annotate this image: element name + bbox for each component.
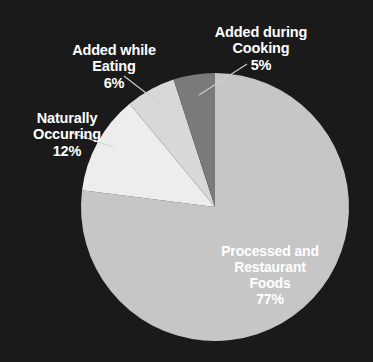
slice-percent-added-during-cooking: 5%	[196, 57, 326, 73]
slice-label-text-added-while-eating: Added while Eating	[72, 42, 156, 74]
slice-label-processed-and-restaurant-foods: Processed and Restaurant Foods 77%	[200, 228, 340, 324]
slice-label-text-processed-and-restaurant-foods: Processed and Restaurant Foods	[221, 243, 319, 291]
slice-label-text-naturally-occurring: Naturally Occurring	[33, 110, 101, 142]
slice-percent-naturally-occurring: 12%	[2, 143, 132, 159]
slice-label-naturally-occurring: Naturally Occurring 12%	[2, 94, 132, 175]
slice-percent-processed-and-restaurant-foods: 77%	[200, 292, 340, 308]
slice-label-text-added-during-cooking: Added during Cooking	[215, 24, 307, 56]
pie-chart: Added during Cooking 5% Added while Eati…	[0, 0, 373, 362]
slice-label-added-during-cooking: Added during Cooking 5%	[196, 8, 326, 89]
slice-percent-added-while-eating: 6%	[48, 75, 180, 91]
